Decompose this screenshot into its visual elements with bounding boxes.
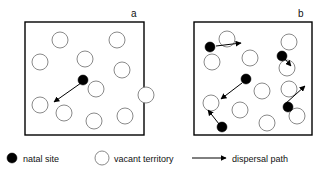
vacant-territory-marker xyxy=(281,81,297,97)
legend-label-natal-site: natal site xyxy=(23,154,59,164)
panel-b: b xyxy=(194,8,312,135)
panel-b-label: b xyxy=(298,8,304,19)
vacant-territory-marker xyxy=(254,83,270,99)
natal-site-icon xyxy=(7,153,17,163)
vacant-territory-marker xyxy=(279,60,295,76)
vacant-territory-marker xyxy=(32,54,48,70)
natal-site-marker xyxy=(241,74,251,84)
vacant-territory-marker xyxy=(281,34,297,50)
vacant-territory-marker xyxy=(52,32,68,48)
vacant-territory-marker xyxy=(204,54,220,70)
legend-label-vacant-territory: vacant territory xyxy=(114,154,174,164)
vacant-territory-marker xyxy=(259,115,275,131)
natal-site-marker xyxy=(217,122,227,132)
vacant-territory-marker xyxy=(117,108,133,124)
legend-item-vacant-territory: vacant territory xyxy=(95,151,174,165)
vacant-territory-marker xyxy=(88,81,104,97)
vacant-territory-marker xyxy=(138,87,154,103)
vacant-territory-marker xyxy=(56,105,72,121)
vacant-territory-marker xyxy=(232,102,248,118)
vacant-territory-marker xyxy=(86,113,102,129)
legend-label-dispersal-path: dispersal path xyxy=(232,154,288,164)
natal-site-marker xyxy=(78,75,88,85)
vacant-territory-icon xyxy=(95,151,109,165)
panel-a: a xyxy=(25,8,154,135)
natal-site-marker xyxy=(277,51,287,61)
vacant-territory-marker xyxy=(203,95,219,111)
legend-item-natal-site: natal site xyxy=(7,153,59,164)
figure-root: ab natal sitevacant territorydispersal p… xyxy=(0,0,324,172)
vacant-territory-marker xyxy=(242,50,258,66)
panel-a-label: a xyxy=(131,8,137,19)
vacant-territory-marker xyxy=(77,51,93,67)
natal-site-marker xyxy=(205,42,215,52)
legend-layer: natal sitevacant territorydispersal path xyxy=(7,151,288,165)
vacant-territory-marker xyxy=(109,32,125,48)
natal-site-marker xyxy=(283,102,293,112)
dispersal-diagram: ab natal sitevacant territorydispersal p… xyxy=(0,0,324,172)
vacant-territory-marker xyxy=(32,97,48,113)
vacant-territory-marker xyxy=(114,62,130,78)
